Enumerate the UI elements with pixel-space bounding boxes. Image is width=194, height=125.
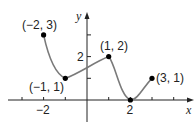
y-ticks [87, 35, 91, 78]
label-point-m2-3: (−2, 3) [22, 18, 57, 32]
x-axis-arrow-icon [187, 98, 194, 103]
y-axis-arrow-icon [85, 12, 90, 19]
y-tick-label-2: 2 [77, 50, 84, 64]
point-m2-3 [41, 32, 46, 37]
label-point-3-1: (3, 1) [156, 71, 184, 85]
graph: (−2, 3) (−1, 1) (1, 2) (3, 1) −2 2 2 x y [0, 0, 194, 125]
y-axis-label: y [75, 9, 82, 23]
point-3-1 [149, 76, 154, 81]
x-axis-label: x [185, 103, 192, 117]
label-point-1-2: (1, 2) [100, 39, 128, 53]
x-tick-label-m2: −2 [36, 103, 50, 117]
label-point-m1-1: (−1, 1) [29, 80, 64, 94]
point-1-2 [106, 54, 111, 59]
point-2-0 [128, 97, 133, 102]
x-tick-label-2: 2 [127, 103, 134, 117]
